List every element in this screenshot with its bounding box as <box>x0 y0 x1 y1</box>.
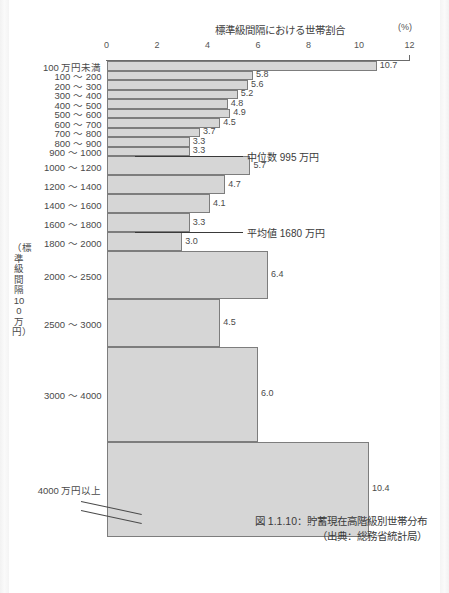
page-root: 標準級間隔における世帯割合 (%) （標準級間隔100万円） 024681012… <box>0 0 449 593</box>
bar-category-label: 3000 〜 4000 <box>0 388 102 402</box>
chart-axis-unit: (%) <box>398 22 412 32</box>
figure-caption-line1: 図 1.1.10：貯蓄現在高階級別世帯分布 <box>215 514 427 529</box>
bar-value-label: 6.0 <box>261 388 274 398</box>
bar-value-label: 4.1 <box>213 198 226 208</box>
bar-value-label: 4.5 <box>223 117 236 127</box>
bar-value-label: 3.3 <box>193 217 206 227</box>
x-axis-right-cap <box>409 55 410 61</box>
bar <box>107 90 238 100</box>
annotation-label-mean: 平均値 1680 万円 <box>247 225 325 240</box>
bar-category-label: 1600 〜 1800 <box>0 217 102 231</box>
bar-category-label: 2000 〜 2500 <box>0 269 102 283</box>
bar-value-label: 3.3 <box>193 136 206 146</box>
annotation-label-median: 中位数 995 万円 <box>247 149 319 164</box>
bar <box>107 251 269 299</box>
annotation-leader-line-mean <box>135 232 244 233</box>
bar-value-label: 6.4 <box>271 269 284 279</box>
x-tick-label: 0 <box>104 40 109 50</box>
bar-value-label: 3.7 <box>203 126 216 136</box>
annotation-leader-line-median <box>135 156 244 157</box>
bar-value-label: 4.7 <box>228 179 241 189</box>
bar <box>107 109 231 119</box>
bar-value-label: 4.8 <box>231 98 244 108</box>
bar <box>107 347 259 442</box>
bar-category-label: 1000 〜 1200 <box>0 160 102 174</box>
bar-value-label: 4.5 <box>223 317 236 327</box>
bar-value-label: 3.0 <box>185 236 198 246</box>
bar-value-label: 10.4 <box>372 483 390 493</box>
bar <box>107 232 183 251</box>
bar <box>107 213 190 232</box>
bar <box>107 128 200 138</box>
figure-caption: 図 1.1.10：貯蓄現在高階級別世帯分布 （出典：総務省統計局） <box>215 514 427 544</box>
bar <box>107 61 377 71</box>
bar-category-label: 1400 〜 1600 <box>0 198 102 212</box>
bar <box>107 194 211 213</box>
x-tick-label: 6 <box>255 40 260 50</box>
bar <box>107 80 248 90</box>
bar <box>107 71 253 81</box>
bar <box>107 99 228 109</box>
bar <box>107 156 251 175</box>
bar-value-label: 4.9 <box>233 107 246 117</box>
chart-axis-title: 標準級間隔における世帯割合 <box>150 22 410 37</box>
bar <box>107 137 190 147</box>
bar <box>107 299 221 347</box>
bar-chart: 標準級間隔における世帯割合 (%) （標準級間隔100万円） 024681012… <box>0 0 449 593</box>
x-tick-label: 4 <box>205 40 210 50</box>
bar <box>107 175 226 194</box>
bar-category-label: 4000 万円以上 <box>0 483 102 497</box>
x-tick-label: 12 <box>404 40 414 50</box>
x-tick-label: 10 <box>354 40 364 50</box>
bar-value-label: 3.3 <box>193 145 206 155</box>
x-tick-label: 2 <box>154 40 159 50</box>
bar <box>107 147 190 157</box>
bar-value-label: 10.7 <box>380 60 398 70</box>
bar-value-label: 5.8 <box>256 69 269 79</box>
bar-category-label: 1800 〜 2000 <box>0 236 102 250</box>
bar-category-label: 1200 〜 1400 <box>0 179 102 193</box>
bar-value-label: 5.6 <box>251 79 264 89</box>
bar-category-label: 900 〜 1000 <box>0 145 102 159</box>
bar-value-label: 5.2 <box>241 88 254 98</box>
bar-category-label: 2500 〜 3000 <box>0 317 102 331</box>
x-tick-label: 8 <box>306 40 311 50</box>
figure-caption-line2: （出典：総務省統計局） <box>215 529 427 544</box>
